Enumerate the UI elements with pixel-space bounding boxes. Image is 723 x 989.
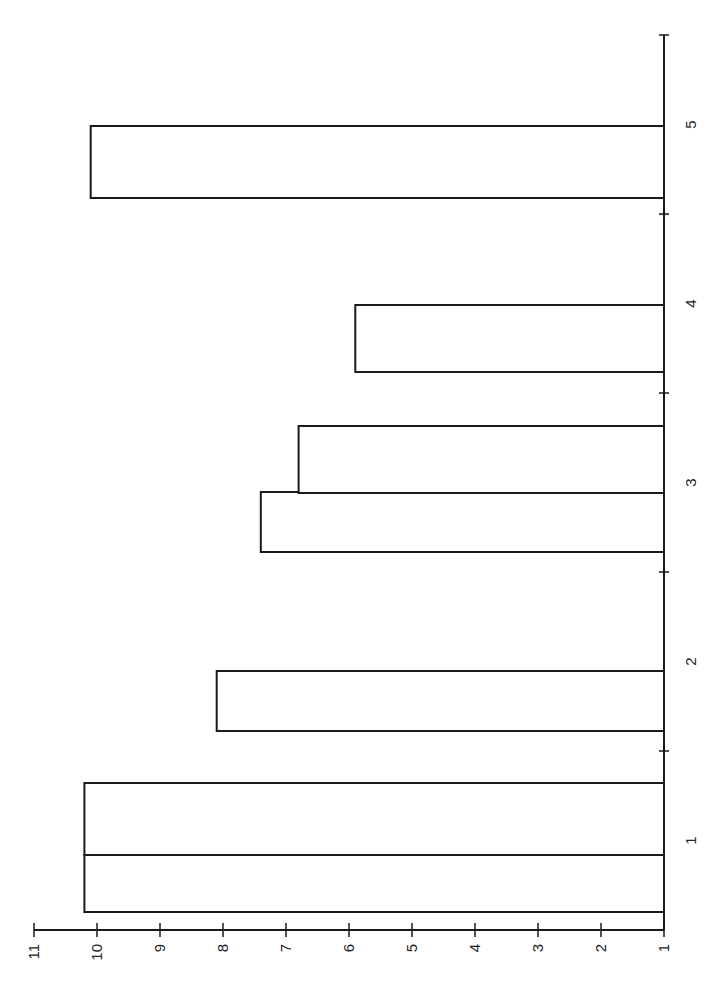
value-tick-label: 4 bbox=[466, 944, 483, 952]
category-label: 5 bbox=[682, 120, 699, 128]
category-label: 3 bbox=[682, 478, 699, 486]
bar-cat-3-1 bbox=[261, 492, 664, 552]
value-tick-label: 11 bbox=[25, 944, 42, 960]
value-tick-label: 3 bbox=[529, 944, 546, 952]
value-tick-label: 6 bbox=[340, 944, 357, 952]
bar-cat-4-1 bbox=[355, 305, 664, 372]
bar-cat-1-2 bbox=[84, 783, 664, 855]
category-label: 2 bbox=[682, 657, 699, 665]
value-tick-label: 7 bbox=[277, 944, 294, 952]
value-tick-label: 8 bbox=[214, 944, 231, 952]
category-label: 4 bbox=[682, 299, 699, 307]
bar-chart: 123451234567891011 bbox=[0, 0, 723, 989]
bar-cat-1-1 bbox=[84, 855, 664, 912]
value-tick-label: 5 bbox=[403, 944, 420, 952]
chart-rotated-frame: 123451234567891011 bbox=[0, 0, 723, 989]
bars-group bbox=[84, 126, 664, 912]
category-label: 1 bbox=[682, 836, 699, 844]
value-tick-label: 2 bbox=[592, 944, 609, 952]
bar-cat-2-1 bbox=[217, 671, 664, 731]
bar-cat-3-2 bbox=[299, 426, 664, 493]
value-tick-label: 10 bbox=[88, 944, 105, 961]
value-tick-label: 9 bbox=[151, 944, 168, 952]
bar-cat-5-1 bbox=[91, 126, 664, 198]
value-tick-label: 1 bbox=[655, 944, 672, 952]
